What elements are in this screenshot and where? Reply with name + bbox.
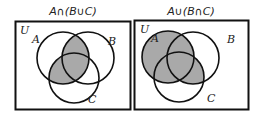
set-c-label: C: [207, 92, 216, 105]
panel-title: A∪(B∩C): [166, 5, 214, 18]
universe-label: U: [140, 23, 150, 36]
set-b-label: B: [107, 35, 116, 48]
panel-title: A∩(B∪C): [48, 5, 96, 18]
set-a-label: A: [150, 32, 159, 45]
set-c-label: C: [88, 93, 97, 106]
panel-right: A∪(B∩C) U A B C: [135, 5, 249, 110]
universe-label: U: [20, 24, 30, 37]
set-b-label: B: [226, 33, 235, 46]
set-a-label: A: [31, 33, 40, 46]
venn-diagrams: A∩(B∪C) U A B C A∪(B∩C) U A B C: [0, 0, 263, 116]
panel-left: A∩(B∪C) U A B C: [16, 5, 131, 110]
